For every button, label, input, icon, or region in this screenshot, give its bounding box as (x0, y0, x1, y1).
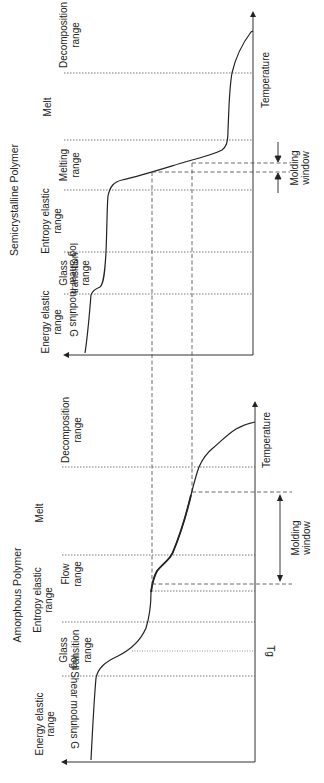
amor-molding-window-arrow (277, 494, 283, 582)
svg-text:Decomposition: Decomposition (60, 397, 71, 463)
svg-text:range: range (43, 587, 54, 613)
molding-window-connectors (152, 163, 192, 584)
svg-text:range: range (52, 309, 63, 335)
svg-text:transition: transition (69, 253, 80, 294)
semi-temperature-label: Temperature (260, 51, 271, 108)
svg-text:Melting: Melting (58, 149, 69, 181)
svg-text:Melt: Melt (42, 97, 53, 116)
svg-text:Melt: Melt (34, 503, 45, 522)
semi-molding-window-label-2: window (300, 151, 311, 186)
semi-region-dividers (64, 73, 253, 294)
polymer-modulus-diagram: Temperature log Shear modulus G Semicrys… (0, 0, 324, 783)
svg-text:Flow: Flow (60, 563, 71, 585)
amor-region-labels: Energy elastic range Glass transition ra… (32, 397, 93, 755)
semi-region-labels: Energy elastic range Glass transition ra… (40, 2, 91, 353)
svg-text:range: range (72, 561, 83, 587)
svg-text:range: range (70, 22, 81, 48)
svg-text:range: range (72, 417, 83, 443)
svg-text:Glass: Glass (58, 260, 69, 286)
amor-molding-window-label: Molding (290, 520, 301, 555)
svg-text:Entropy elastic: Entropy elastic (40, 188, 51, 254)
svg-text:Energy elastic: Energy elastic (34, 693, 45, 756)
svg-text:range: range (82, 637, 93, 663)
amor-tg-label: Tg (265, 645, 276, 657)
amor-title: Amorphous Polymer (11, 547, 23, 643)
svg-text:range: range (80, 260, 91, 286)
semi-molding-window-lines (152, 163, 290, 172)
svg-text:Decomposition: Decomposition (58, 2, 69, 68)
svg-text:range: range (52, 208, 63, 234)
semi-molding-window-label: Molding (289, 150, 300, 185)
svg-text:range: range (45, 711, 56, 737)
svg-text:Glass: Glass (58, 637, 69, 663)
amor-flow-highlight (151, 495, 191, 592)
semicrystalline-panel: Temperature log Shear modulus G Semicrys… (8, 2, 311, 355)
amorphous-panel: Temperature log Shear modulus G Tg Amorp… (11, 397, 312, 762)
amor-temperature-label: Temperature (261, 411, 272, 468)
semi-molding-window-arrows (275, 142, 281, 193)
amor-molding-window-lines (152, 492, 292, 584)
amor-molding-window-label-2: window (301, 521, 312, 556)
svg-text:Entropy elastic: Entropy elastic (32, 567, 43, 633)
semi-modulus-curve (85, 31, 253, 353)
svg-text:Energy elastic: Energy elastic (40, 291, 51, 354)
svg-text:transition: transition (70, 630, 81, 671)
svg-text:range: range (70, 152, 81, 178)
semi-title: Semicrystalline Polymer (8, 143, 20, 256)
